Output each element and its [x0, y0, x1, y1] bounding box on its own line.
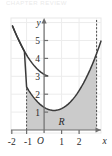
y-tick-label-1: 1 — [35, 108, 40, 118]
origin-label: O — [37, 136, 44, 146]
x-tick-label-1: 1 — [59, 137, 64, 147]
x-tick-label-neg1: -1 — [24, 137, 32, 147]
region-label-R: R — [57, 116, 64, 127]
x-tick-label-2: 2 — [77, 137, 82, 147]
graph-plot: -2 -1 1 2 O 1 2 3 4 5 x y R — [0, 0, 112, 156]
y-tick-label-2: 2 — [35, 90, 40, 100]
y-axis-label: y — [35, 18, 41, 28]
y-tick-label-4: 4 — [35, 54, 40, 64]
y-tick-label-5: 5 — [35, 36, 40, 46]
x-tick-label-neg2: -2 — [8, 137, 16, 147]
figure-container: CHAPTER REVIEW — [0, 0, 112, 156]
x-axis-label: x — [101, 136, 107, 146]
y-tick-label-3: 3 — [35, 72, 40, 82]
